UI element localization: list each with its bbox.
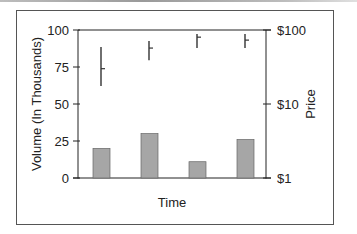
- y-tick-label: 75: [55, 60, 69, 75]
- volume-bar: [237, 140, 254, 178]
- volume-bar: [141, 134, 158, 178]
- y2-axis-title: Price: [303, 89, 318, 119]
- y2-tick-label: $1: [277, 171, 291, 186]
- y2-tick-label: $10: [277, 97, 299, 112]
- volume-bar: [189, 162, 206, 178]
- volume-bar: [93, 148, 110, 178]
- y-tick-label: 25: [55, 134, 69, 149]
- y2-tick-label: $100: [277, 23, 306, 38]
- chart-frame: [17, 11, 334, 225]
- y-tick-label: 100: [47, 23, 69, 38]
- y-axis-title: Volume (In Thousands): [29, 37, 44, 171]
- x-axis-title: Time: [158, 195, 186, 210]
- y-tick-label: 0: [62, 171, 69, 186]
- y-tick-label: 50: [55, 97, 69, 112]
- chart: 0255075100$1$10$100 Time Volume (In Thou…: [0, 0, 357, 234]
